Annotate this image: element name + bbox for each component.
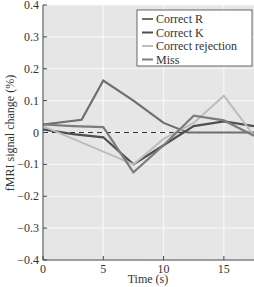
x-tick-label: 5	[100, 262, 106, 276]
y-tick-label: 0.2	[24, 62, 39, 76]
x-tick-label: 0	[40, 262, 46, 276]
y-tick-label: −0.2	[17, 189, 39, 203]
x-tick-label: 15	[218, 262, 230, 276]
legend-label: Correct R	[156, 12, 203, 26]
y-tick-label: −0.1	[17, 157, 39, 171]
y-tick-label: 0	[33, 126, 39, 140]
legend-label: Miss	[156, 53, 180, 67]
y-tick-labels: −0.4−0.3−0.2−0.100.10.20.30.4	[17, 0, 39, 267]
legend: Correct RCorrect KCorrect rejectionMiss	[137, 10, 252, 67]
y-tick-label: 0.3	[24, 30, 39, 44]
x-axis-title: Time (s)	[128, 272, 169, 286]
y-tick-label: 0.1	[24, 94, 39, 108]
y-tick-label: 0.4	[24, 0, 39, 12]
line-chart: −0.4−0.3−0.2−0.100.10.20.30.4 051015 Tim…	[0, 0, 254, 287]
legend-label: Correct K	[156, 26, 204, 40]
y-tick-label: −0.4	[17, 253, 39, 267]
y-tick-label: −0.3	[17, 221, 39, 235]
y-axis-title: fMRI signal change (%)	[3, 75, 17, 191]
legend-label: Correct rejection	[156, 39, 237, 53]
